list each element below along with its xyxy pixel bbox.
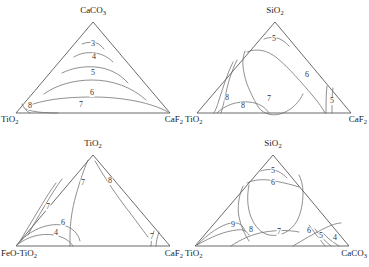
vertex-label-right: CaCO3 <box>341 249 367 258</box>
contour-5-top <box>264 38 289 47</box>
contour-8 <box>95 161 148 237</box>
contour-label: 5 <box>271 167 276 175</box>
contour-label: 7 <box>277 228 282 236</box>
contour-6 <box>247 50 325 113</box>
contour-label: 6 <box>305 71 310 79</box>
vertex-label-right: CaF2 <box>165 249 183 258</box>
contour-label: 6 <box>61 219 66 227</box>
contour-label: 4 <box>92 53 97 61</box>
contour-7-mid <box>70 160 88 246</box>
vertex-label-left: TiO2 <box>1 115 18 124</box>
ternary-diagram-figure: CaCO3 TiO2 CaF2 3 4 5 6 7 8 SiO2 TiO2 Ca… <box>0 0 369 267</box>
vertex-label-left: FeO-TiO2 <box>1 249 37 258</box>
contour-label: 7 <box>81 179 86 187</box>
contour-label: 5 <box>330 97 335 105</box>
panel-bottom-right: SiO2 TiO2 CaCO3 5 6 9 8 7 6 5 4 <box>185 133 369 267</box>
contour-label: 5 <box>272 35 277 43</box>
vertex-label-left: TiO2 <box>185 249 202 258</box>
contour-label: 7 <box>267 95 272 103</box>
contour-label: 8 <box>108 177 113 185</box>
contour-6 <box>17 225 80 245</box>
contour-7 <box>28 97 168 112</box>
vertex-label-right: CaF2 <box>349 115 367 124</box>
contour-label: 8 <box>249 226 254 234</box>
contour-label: 4 <box>54 229 59 237</box>
contour-7 <box>243 51 303 115</box>
contour-label: 9 <box>231 221 236 229</box>
vertex-label-right: CaF2 <box>165 115 183 124</box>
contour-label: 5 <box>91 69 96 77</box>
contour-5-right-b <box>326 86 327 113</box>
panel-top-right-plot <box>185 0 369 133</box>
contour-7-right-b <box>156 232 159 246</box>
contour-label: 7 <box>79 101 84 109</box>
vertex-label-left: TiO2 <box>185 115 202 124</box>
contour-label: 6 <box>307 227 312 235</box>
panel-bottom-left-plot <box>0 133 185 267</box>
contour-label: 5 <box>319 232 324 240</box>
panel-top-left-plot <box>0 0 185 133</box>
panel-top-right: SiO2 TiO2 CaF2 5 6 7 8 8 5 <box>185 0 369 133</box>
contour-label: 7 <box>150 233 155 241</box>
contour-7-left-b <box>20 183 56 241</box>
contour-label: 8 <box>225 94 230 102</box>
panel-top-left: CaCO3 TiO2 CaF2 3 4 5 6 7 8 <box>0 0 185 133</box>
contour-label: 4 <box>333 234 338 242</box>
contour-label: 6 <box>271 179 276 187</box>
contour-label: 8 <box>28 102 33 110</box>
contour-label: 3 <box>91 40 96 48</box>
panel-bottom-right-plot <box>185 133 369 267</box>
contour-label: 6 <box>90 89 95 97</box>
contour-7-base <box>231 231 299 247</box>
contour-label: 8 <box>241 102 246 110</box>
vertex-label-apex: SiO2 <box>264 139 281 148</box>
vertex-label-apex: SiO2 <box>266 6 283 15</box>
vertex-label-apex: TiO2 <box>84 139 101 148</box>
triangle-outline <box>16 155 170 246</box>
panel-bottom-left: TiO2 FeO-TiO2 CaF2 7 8 7 6 4 7 <box>0 133 185 267</box>
contour-label: 7 <box>46 203 51 211</box>
vertex-label-apex: CaCO3 <box>80 6 106 15</box>
